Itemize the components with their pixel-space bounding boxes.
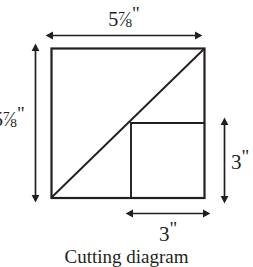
top-dimension-label: 57⁄8" [0,5,248,30]
left-dimension-fraction: 57⁄8 [0,109,17,129]
left-denominator: 8 [10,115,17,130]
top-dimension-fraction: 57⁄8 [108,9,132,29]
top-unit: " [132,3,140,24]
left-unit: " [17,103,25,124]
right-dimension-label: 3" [231,148,249,173]
top-denominator: 8 [125,15,132,30]
bottom-dimension-label: 3" [131,220,205,245]
bottom-unit: " [169,218,177,239]
right-unit: " [242,146,250,167]
right-value: 3 [231,150,242,174]
inner-square [131,123,205,198]
left-dimension-label: 57⁄8" [0,105,25,130]
bottom-value: 3 [159,222,170,246]
figure-caption: Cutting diagram [0,247,253,266]
top-whole: 5 [108,8,118,30]
